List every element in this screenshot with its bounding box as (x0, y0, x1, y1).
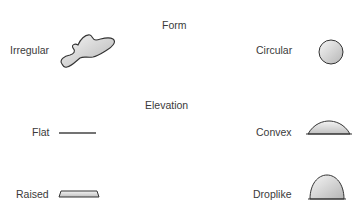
form-heading: Form (162, 19, 187, 31)
raised-elevation-icon (56, 189, 102, 199)
elevation-heading: Elevation (145, 99, 188, 111)
flat-elevation-icon (58, 130, 98, 136)
irregular-label: Irregular (10, 44, 49, 56)
circular-colony-icon (317, 38, 345, 66)
convex-elevation-icon (306, 119, 352, 137)
raised-label: Raised (16, 188, 49, 200)
circular-label: Circular (256, 44, 292, 56)
convex-label: Convex (256, 126, 292, 138)
droplike-elevation-icon (307, 172, 347, 202)
irregular-colony-icon (58, 30, 120, 70)
droplike-label: Droplike (253, 188, 292, 200)
flat-label: Flat (32, 126, 50, 138)
